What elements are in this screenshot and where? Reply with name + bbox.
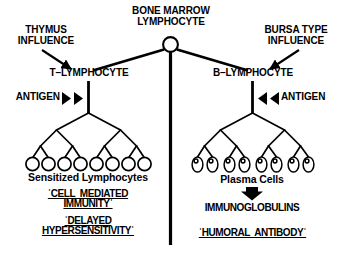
right-lymphocyte-tree — [198, 113, 309, 157]
humoral-antibody-label: ˈHUMORAL ANTIBODYˈ — [180, 228, 325, 239]
antigen-left-label: ANTIGEN — [8, 92, 60, 103]
immunoglobulins-label: IMMUNOGLOBULINS — [182, 203, 322, 214]
origin-label-line2: LYMPHOCYTE — [127, 17, 215, 28]
plasma-cells-label: Plasma Cells — [192, 174, 312, 185]
sensitized-lymphocyte-cells — [26, 157, 151, 170]
b-lymphocyte-label: B–LYMPHOCYTE — [192, 68, 314, 79]
bursa-influence-label-line2: INFLUENCE — [256, 36, 336, 47]
bursa-influence-label-line1: BURSA TYPE — [256, 25, 336, 36]
t-lymphocyte-label: T–LYMPHOCYTE — [28, 68, 150, 79]
delayed-hypersensitivity-line2: HYPERSENSITIVITYˈ — [13, 226, 163, 237]
antigen-left-arrow-icons — [62, 92, 83, 105]
origin-label-line1: BONE MARROW — [127, 6, 215, 17]
antigen-right-arrow-icons — [258, 92, 279, 105]
thymus-influence-label-line1: THYMUS — [8, 25, 84, 36]
thymus-influence-label-line2: INFLUENCE — [8, 36, 84, 47]
lymphocyte-differentiation-diagram: BONE MARROW LYMPHOCYTE THYMUS INFLUENCE … — [0, 0, 341, 258]
antigen-right-label: ANTIGEN — [281, 92, 335, 103]
sensitized-lymphocytes-label: Sensitized Lymphocytes — [13, 172, 163, 183]
left-lymphocyte-tree — [33, 113, 145, 158]
immunoglobulin-secretion-arrow-icon — [241, 187, 263, 201]
plasma-cells — [192, 157, 314, 172]
bone-marrow-lymphocyte-node — [163, 37, 178, 52]
cell-mediated-immunity-line2: IMMUNITYˈ — [18, 199, 158, 210]
